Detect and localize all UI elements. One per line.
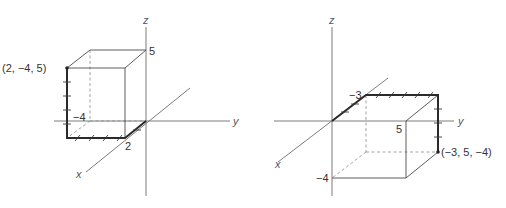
z-tick-label: −4 — [316, 172, 329, 184]
z-tick-label: 5 — [149, 45, 155, 57]
z-axis-label: z — [328, 14, 335, 26]
x-tick-label: −3 — [349, 89, 362, 101]
point-marker — [436, 150, 440, 154]
x-axis-label: x — [75, 168, 82, 180]
coordinate-path — [67, 68, 146, 138]
left-figure: z y x (2, −4, 5) 5 −4 2 — [2, 14, 240, 196]
figure-canvas: z y x (2, −4, 5) 5 −4 2 — [0, 0, 506, 208]
y-tick-label: −4 — [73, 111, 86, 123]
y-axis-label: y — [232, 115, 240, 127]
box-hidden-edge — [332, 152, 366, 178]
point-marker — [65, 66, 69, 70]
y-axis-label: y — [457, 115, 465, 127]
right-figure: z y x (−3, 5, −4) −3 5 −4 — [274, 14, 492, 196]
point-label: (2, −4, 5) — [2, 62, 46, 74]
box-edge — [406, 152, 438, 178]
x-tick-label: 2 — [125, 140, 131, 152]
box-top-edges — [67, 50, 146, 68]
z-axis-label: z — [142, 14, 149, 26]
x-axis-label: x — [274, 158, 281, 170]
coordinate-path — [332, 95, 438, 152]
y-tick-label: 5 — [396, 123, 402, 135]
box-edge — [406, 95, 438, 121]
point-label: (−3, 5, −4) — [441, 146, 492, 158]
